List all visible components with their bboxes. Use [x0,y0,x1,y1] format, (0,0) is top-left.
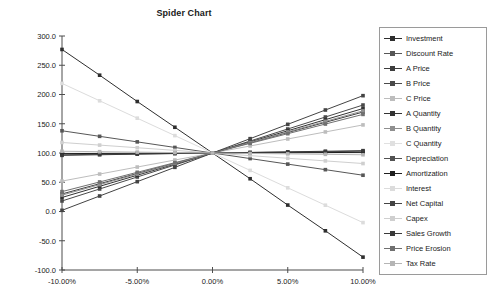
series-marker [135,116,139,120]
legend-swatch-icon [383,243,403,254]
series-marker [324,203,328,207]
x-axis-tick-label: 10.00% [350,277,376,286]
legend-item-label: Tax Rate [406,256,436,271]
legend-item-label: A Quantity [406,106,441,121]
legend-item-label: C Quantity [406,136,441,151]
legend-item-interest[interactable]: Interest [383,181,482,196]
legend-item-capex[interactable]: Capex [383,211,482,226]
legend-item-label: Price Erosion [406,241,451,256]
series-marker [248,169,252,173]
series-marker [135,180,139,184]
series-marker [60,193,64,197]
series-marker [173,166,177,170]
series-marker [361,113,365,117]
x-axis-tick-label: -10.00% [48,277,76,286]
legend-item-b-quantity[interactable]: B Quantity [383,121,482,136]
series-marker [60,190,64,194]
chart-legend: InvestmentDiscount RateA PriceB PriceC P… [379,27,487,275]
legend-item-label: Amortization [406,166,448,181]
legend-item-label: Sales Growth [406,226,451,241]
legend-item-label: B Quantity [406,121,441,136]
legend-item-amortization[interactable]: Amortization [383,166,482,181]
legend-swatch-icon [383,123,403,134]
series-marker [324,159,328,163]
legend-item-label: B Price [406,76,430,91]
legend-item-label: Net Capital [406,196,443,211]
series-marker [135,100,139,104]
series-marker [60,199,64,203]
y-axis-tick-label: 0.0 [46,207,56,216]
series-marker [286,132,290,136]
series-marker [324,130,328,134]
series-marker [324,153,328,157]
chart-container: Spider Chart 300.0250.0200.0150.0100.050… [0,0,494,303]
legend-item-c-price[interactable]: C Price [383,91,482,106]
legend-item-label: Discount Rate [406,46,453,61]
legend-item-discount-rate[interactable]: Discount Rate [383,46,482,61]
series-marker [248,152,252,156]
legend-swatch-icon [383,228,403,239]
series-marker [60,82,64,86]
series-marker [98,99,102,103]
y-axis-tick-label: 300.0 [37,32,56,41]
legend-swatch-icon [383,78,403,89]
series-marker [361,153,365,157]
series-marker [60,154,64,158]
series-marker [98,143,102,147]
series-marker [98,180,102,184]
y-axis-tick-label: 150.0 [37,120,56,129]
y-axis-tick-label: 100.0 [37,149,56,158]
series-marker [60,48,64,52]
legend-swatch-icon [383,93,403,104]
series-marker [173,161,177,165]
series-marker [361,149,365,153]
series-marker [248,177,252,181]
series-marker [135,146,139,150]
legend-swatch-icon [383,33,403,44]
legend-item-c-quantity[interactable]: C Quantity [383,136,482,151]
legend-item-label: A Price [406,61,430,76]
series-marker [135,140,139,144]
legend-item-a-price[interactable]: A Price [383,61,482,76]
series-marker [98,194,102,198]
series-marker [361,162,365,166]
series-marker [324,168,328,172]
series-marker [361,103,365,107]
legend-item-label: Interest [406,181,431,196]
legend-swatch-icon [383,63,403,74]
legend-item-sales-growth[interactable]: Sales Growth [383,226,482,241]
legend-item-tax-rate[interactable]: Tax Rate [383,256,482,271]
legend-item-investment[interactable]: Investment [383,31,482,46]
series-marker [98,153,102,157]
legend-item-b-price[interactable]: B Price [383,76,482,91]
series-marker [361,94,365,98]
series-marker [361,221,365,225]
legend-swatch-icon [383,213,403,224]
legend-item-label: C Price [406,91,431,106]
legend-swatch-icon [383,138,403,149]
y-axis-tick-label: 250.0 [37,61,56,70]
series-marker [361,255,365,259]
legend-item-a-quantity[interactable]: A Quantity [383,106,482,121]
legend-item-label: Investment [406,31,443,46]
y-axis-tick-label: 50.0 [41,178,56,187]
series-marker [248,137,252,141]
series-marker [286,156,290,160]
y-axis-tick-label: -100.0 [35,266,56,275]
legend-item-price-erosion[interactable]: Price Erosion [383,241,482,256]
series-marker [60,129,64,133]
series-marker [324,149,328,153]
series-marker [98,73,102,77]
series-marker [286,162,290,166]
series-marker [361,123,365,127]
series-marker [286,123,290,127]
series-marker [98,150,102,154]
series-marker [286,137,290,141]
legend-item-depreciation[interactable]: Depreciation [383,151,482,166]
legend-item-net-capital[interactable]: Net Capital [383,196,482,211]
series-marker [361,109,365,113]
legend-swatch-icon [383,198,403,209]
series-marker [98,172,102,176]
series-marker [173,151,177,155]
series-marker [211,151,215,155]
